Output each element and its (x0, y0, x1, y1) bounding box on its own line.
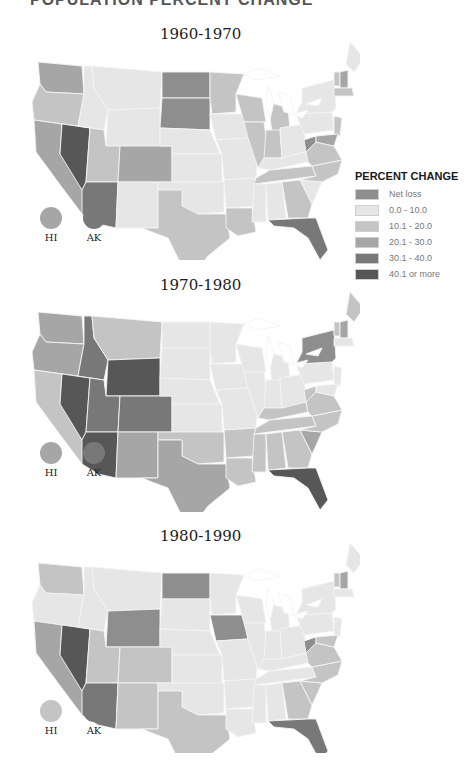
territory-dot (40, 442, 62, 464)
legend: PERCENT CHANGE Net loss 0.0 - 10.0 10.1 … (355, 170, 469, 282)
state-ma (334, 88, 354, 96)
legend-label: 10.1 - 20.0 (389, 221, 432, 231)
state-ia (210, 615, 248, 641)
state-co (118, 146, 172, 182)
territory-dot (40, 207, 62, 229)
legend-swatch (355, 253, 379, 264)
legend-swatch (355, 269, 379, 280)
territory-hi: HI (36, 700, 66, 736)
territory-hi: HI (36, 207, 66, 243)
state-ms (252, 434, 266, 472)
state-la (226, 709, 256, 737)
territory-dot (83, 442, 105, 464)
state-ma (334, 338, 354, 346)
state-sd (160, 348, 210, 380)
state-co (118, 647, 172, 683)
state-mn (210, 573, 244, 615)
territory-dot (83, 207, 105, 229)
state-sd (160, 599, 210, 631)
state-me (346, 292, 360, 322)
map-panel-1970-1980: 1970-1980 HIAK (0, 272, 360, 512)
state-ma (334, 589, 354, 597)
great-lake (244, 569, 280, 581)
legend-label: 40.1 or more (389, 269, 440, 279)
state-fl (268, 719, 328, 753)
state-wy (106, 609, 160, 647)
state-me (346, 543, 360, 573)
territory-label: HI (36, 725, 66, 736)
legend-label: 20.1 - 30.0 (389, 237, 432, 247)
map-title: 1970-1980 (160, 276, 280, 294)
territory-label: HI (36, 467, 66, 478)
state-ar (224, 428, 256, 458)
territory-label: AK (79, 232, 109, 243)
state-nh (340, 320, 348, 338)
state-mn (210, 72, 244, 114)
legend-label: Net loss (389, 189, 422, 199)
legend-item-30-40: 30.1 - 40.0 (355, 250, 469, 266)
state-ar (224, 679, 256, 709)
territory-dot (40, 700, 62, 722)
state-sd (160, 98, 210, 130)
territory-hi: HI (36, 442, 66, 478)
state-wy (106, 358, 160, 396)
legend-label: 30.1 - 40.0 (389, 253, 432, 263)
state-nh (340, 70, 348, 88)
state-ny (296, 80, 336, 114)
territory-ak: AK (79, 442, 109, 478)
state-nm (116, 683, 158, 729)
state-la (226, 208, 256, 236)
state-wa (38, 62, 84, 94)
legend-label: 0.0 - 10.0 (389, 205, 427, 215)
state-vt (334, 322, 340, 336)
state-nm (116, 432, 158, 478)
state-ny (296, 581, 336, 615)
state-nd (162, 573, 210, 599)
state-ks (172, 655, 222, 683)
territory-ak: AK (79, 207, 109, 243)
great-lake (244, 68, 280, 80)
state-in (264, 130, 282, 158)
state-wa (38, 563, 84, 595)
map-panel-1980-1990: 1980-1990 HIAK (0, 513, 360, 753)
state-fl (268, 468, 328, 510)
state-mn (210, 322, 244, 364)
state-ks (172, 404, 222, 432)
legend-item-20-30: 20.1 - 30.0 (355, 234, 469, 250)
legend-title: PERCENT CHANGE (355, 170, 469, 182)
legend-swatch (355, 205, 379, 216)
state-in (264, 631, 282, 659)
state-co (118, 396, 172, 432)
page-title: POPULATION PERCENT CHANGE (30, 0, 370, 5)
state-nj (334, 617, 342, 637)
territory-label: HI (36, 232, 66, 243)
legend-item-40-plus: 40.1 or more (355, 266, 469, 282)
state-nh (340, 571, 348, 589)
state-fl (268, 218, 328, 260)
state-nj (334, 116, 342, 136)
state-ms (252, 685, 266, 723)
legend-item-10-20: 10.1 - 20.0 (355, 218, 469, 234)
state-ny (296, 330, 336, 364)
legend-item-0-10: 0.0 - 10.0 (355, 202, 469, 218)
state-ms (252, 184, 266, 222)
state-in (264, 380, 282, 408)
map-title: 1960-1970 (160, 25, 280, 43)
map-title: 1980-1990 (160, 527, 280, 545)
state-la (226, 458, 256, 486)
great-lake (244, 318, 280, 330)
territory-label: AK (79, 467, 109, 478)
state-nd (162, 322, 210, 348)
state-me (346, 42, 360, 72)
state-wa (38, 312, 84, 344)
territory-label: AK (79, 725, 109, 736)
state-ia (210, 114, 248, 140)
state-vt (334, 573, 340, 587)
state-wy (106, 108, 160, 146)
state-ar (224, 178, 256, 208)
state-vt (334, 72, 340, 86)
state-ks (172, 154, 222, 182)
legend-swatch (355, 221, 379, 232)
legend-swatch (355, 237, 379, 248)
state-ia (210, 364, 248, 390)
